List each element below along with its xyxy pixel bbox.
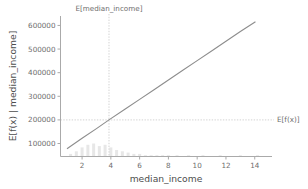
chart-figure: 2468101214 10000020000030000040000050000… — [0, 0, 308, 189]
x-tick-label: 10 — [193, 161, 203, 170]
x-axis-label: median_income — [130, 173, 203, 184]
histogram-bar — [98, 146, 101, 156]
histogram-bar — [92, 144, 95, 157]
median-income-histogram — [69, 144, 259, 157]
x-tick-label: 2 — [80, 161, 85, 170]
histogram-bar — [104, 145, 107, 157]
chart-canvas: 2468101214 10000020000030000040000050000… — [0, 0, 308, 189]
x-tick-label: 4 — [109, 161, 114, 170]
histogram-bar — [127, 153, 130, 157]
x-tick-label: 12 — [221, 161, 230, 170]
y-tick-label: 300000 — [28, 92, 56, 101]
y-axis-label: E[f(x) | median_income] — [7, 31, 18, 141]
expected-y-annotation-label: E[f(x)] — [277, 115, 300, 124]
histogram-bar — [109, 147, 112, 156]
y-tick-label: 100000 — [28, 139, 56, 148]
x-tick-label: 6 — [137, 161, 142, 170]
conditional-expectation-line — [67, 22, 255, 149]
histogram-bar — [121, 151, 124, 156]
histogram-bar — [86, 145, 89, 157]
y-tick-label: 500000 — [28, 45, 56, 54]
histogram-bar — [81, 147, 84, 156]
histogram-bar — [115, 150, 118, 157]
y-axis-ticks: 100000200000300000400000500000600000 — [28, 21, 60, 148]
y-tick-label: 400000 — [28, 68, 56, 77]
x-tick-label: 14 — [250, 161, 260, 170]
x-axis-ticks: 2468101214 — [80, 157, 260, 170]
histogram-bar — [75, 151, 78, 156]
y-tick-label: 600000 — [28, 21, 56, 30]
y-tick-label: 200000 — [28, 115, 56, 124]
x-tick-label: 8 — [166, 161, 171, 170]
expected-x-annotation-label: E[median_income] — [75, 4, 142, 13]
